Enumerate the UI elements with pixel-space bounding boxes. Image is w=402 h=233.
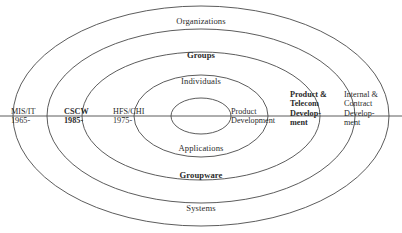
axis-label-cscw-year: 1985- — [64, 116, 83, 125]
axis-label-product-telecom-line3: Develop- — [290, 109, 327, 118]
ring-label-organizations: Organizations — [176, 17, 225, 26]
axis-label-product-development-line1: Product — [231, 107, 256, 116]
axis-label-product-development-line2: Development — [231, 116, 275, 125]
ellipse-rings-graphic — [0, 0, 402, 233]
axis-label-cscw-name: CSCW — [64, 107, 89, 116]
nested-ellipse-diagram: Organizations Groups Individuals Applica… — [0, 0, 402, 233]
axis-label-internal-contract-line1: Internal & — [344, 90, 378, 99]
axis-label-mis-it-year: 1965- — [11, 116, 30, 125]
axis-label-product-telecom-line2: Telecom — [290, 99, 327, 108]
axis-label-internal-contract-line2: Contract — [344, 99, 378, 108]
axis-label-product-telecom-line1: Product & — [290, 90, 327, 99]
axis-label-internal-contract-line3: Develop- — [344, 109, 378, 118]
axis-label-mis-it-name: MIS/IT — [11, 107, 36, 116]
ring-label-individuals: Individuals — [181, 77, 221, 86]
axis-label-internal-contract-line4: ment — [344, 118, 378, 127]
axis-label-product-telecom-development: Product & Telecom Develop- ment — [290, 90, 327, 127]
axis-label-hfs-chi-name: HFS/CHI — [113, 107, 144, 116]
ring-label-groupware: Groupware — [179, 171, 222, 180]
ring-label-groups: Groups — [187, 51, 215, 60]
axis-label-hfs-chi-year: 1975- — [113, 116, 132, 125]
ring-label-systems: Systems — [186, 204, 215, 213]
axis-label-product-telecom-line4: ment — [290, 118, 327, 127]
axis-label-internal-contract-development: Internal & Contract Develop- ment — [344, 90, 378, 127]
ring-label-applications: Applications — [178, 144, 223, 153]
